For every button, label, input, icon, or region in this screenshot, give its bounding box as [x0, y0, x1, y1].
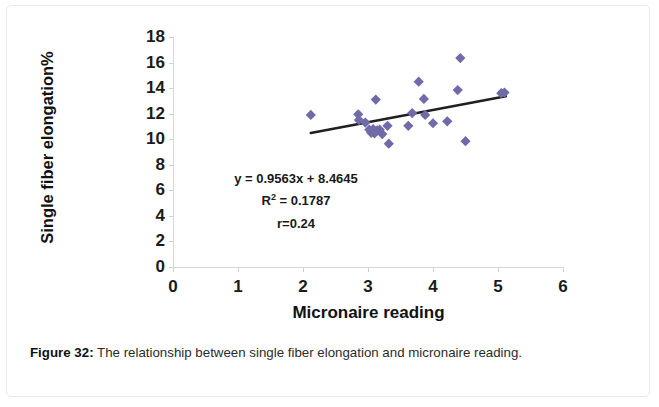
figure-caption-text: The relationship between single fiber el…	[97, 345, 522, 360]
x-tick	[368, 268, 369, 272]
data-point	[419, 94, 429, 104]
y-tick-label: 18	[129, 27, 165, 47]
data-point	[428, 118, 438, 128]
y-tick	[169, 267, 173, 268]
x-tick	[238, 268, 239, 272]
x-tick-label: 5	[478, 277, 518, 297]
y-tick-label: 4	[129, 206, 165, 226]
regression-annotation: y = 0.9563x + 8.4645 R2 = 0.1787 r=0.24	[196, 168, 396, 235]
x-tick	[498, 268, 499, 272]
y-axis-title: Single fiber elongation%	[38, 23, 57, 273]
data-point	[403, 121, 413, 131]
figure-page: 0123456024681012141618 y = 0.9563x + 8.4…	[0, 0, 659, 407]
data-point	[407, 108, 417, 118]
correlation-value: r=0.24	[196, 213, 396, 235]
data-point	[455, 53, 465, 63]
regression-equation: y = 0.9563x + 8.4645	[196, 168, 396, 190]
data-point	[371, 95, 381, 105]
y-tick-label: 2	[129, 231, 165, 251]
y-tick-label: 14	[129, 78, 165, 98]
data-point	[442, 116, 452, 126]
x-tick-label: 4	[413, 277, 453, 297]
figure-number: Figure 32	[30, 345, 89, 360]
y-tick-label: 0	[129, 257, 165, 277]
y-tick-label: 6	[129, 180, 165, 200]
r-squared-value: R2 = 0.1787	[196, 190, 396, 213]
x-tick	[433, 268, 434, 272]
x-tick-label: 0	[153, 277, 193, 297]
x-axis-title: Micronaire reading	[173, 303, 564, 323]
x-tick-label: 6	[543, 277, 583, 297]
y-tick-label: 12	[129, 104, 165, 124]
chart-figure: 0123456024681012141618 y = 0.9563x + 8.4…	[0, 0, 659, 330]
r-squared-symbol: R	[262, 194, 271, 209]
y-tick-label: 10	[129, 129, 165, 149]
r-squared-number: = 0.1787	[276, 194, 331, 209]
figure-caption: Figure 32: The relationship between sing…	[30, 343, 630, 363]
data-point	[460, 136, 470, 146]
data-point	[453, 85, 463, 95]
y-tick-label: 16	[129, 53, 165, 73]
x-tick	[563, 268, 564, 272]
x-tick-label: 3	[348, 277, 388, 297]
y-tick-label: 8	[129, 155, 165, 175]
x-tick	[303, 268, 304, 272]
data-point	[414, 77, 424, 87]
x-tick-label: 1	[218, 277, 258, 297]
x-tick	[173, 268, 174, 272]
x-tick-label: 2	[283, 277, 323, 297]
figure-caption-separator: :	[89, 345, 93, 360]
data-point	[384, 139, 394, 149]
data-point	[306, 110, 316, 120]
